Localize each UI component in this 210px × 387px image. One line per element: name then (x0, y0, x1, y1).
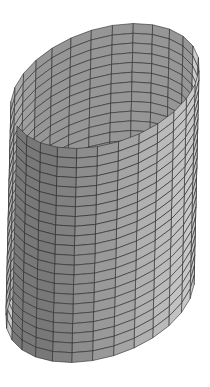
mesh-facet (53, 322, 73, 333)
mesh-facet (132, 72, 152, 83)
mesh-facet (55, 235, 75, 246)
mesh-facet (54, 274, 74, 285)
mesh-facet (55, 225, 75, 236)
mesh-facet (56, 186, 76, 197)
elliptical-cylinder-mesh (0, 0, 210, 387)
mesh-facet (133, 33, 153, 44)
mesh-facet (72, 351, 93, 363)
mesh-facet (52, 352, 72, 363)
mesh-facet (133, 24, 153, 35)
mesh-facet (54, 283, 74, 294)
mesh-facet (56, 215, 76, 226)
mesh-facet (57, 147, 76, 158)
mesh-facet (57, 157, 77, 168)
mesh-facet (53, 342, 73, 353)
mesh-facet (54, 264, 74, 275)
mesh-facet (131, 101, 151, 112)
mesh-facet (57, 167, 77, 178)
mesh-facet (133, 43, 153, 54)
mesh-facet (132, 92, 152, 103)
mesh-facet (132, 53, 152, 64)
mesh-facet (55, 254, 74, 265)
mesh-facet (56, 206, 76, 217)
mesh-facet (54, 303, 74, 314)
mesh-facet (132, 62, 152, 73)
mesh-facet (53, 313, 73, 324)
mesh-facet (131, 111, 151, 122)
mesh-facet (55, 245, 75, 256)
mesh-facet (132, 82, 152, 93)
render-stage: 3D mesh rendering of an open elliptical … (0, 0, 210, 387)
mesh-facet (53, 332, 73, 343)
mesh-facet (54, 293, 74, 304)
mesh-facet (57, 176, 77, 187)
mesh-facet (56, 196, 76, 207)
